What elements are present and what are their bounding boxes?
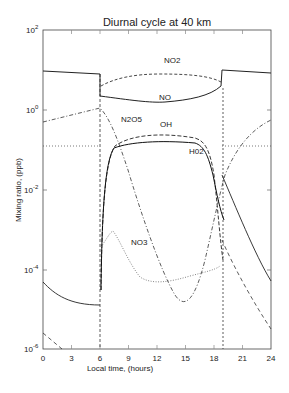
series-no2: [101, 74, 221, 86]
x-axis-label: Local time, (hours): [87, 364, 154, 373]
chart-title: Diurnal cycle at 40 km: [103, 16, 211, 28]
chart-canvas: Diurnal cycle at 40 km Mixing ratio, (pp…: [0, 0, 289, 393]
svg-text:3: 3: [69, 354, 74, 363]
svg-text:10-6: 10-6: [24, 343, 39, 354]
svg-text:9: 9: [126, 354, 131, 363]
svg-text:NO3: NO3: [131, 238, 148, 247]
series-labels: NO2 NO N2O5 OH H02 NO3: [121, 56, 204, 247]
x-tick-labels: 0 3 6 9 12 15 18 21 24: [41, 354, 276, 363]
y-ticks: [43, 110, 271, 270]
series-ho2: [101, 142, 224, 290]
series-no3: [101, 231, 220, 282]
svg-text:H02: H02: [189, 147, 204, 156]
svg-text:6: 6: [98, 354, 103, 363]
y-tick-labels: 102 100 10-2 10-4 10-6: [24, 24, 39, 354]
svg-text:N2O5: N2O5: [121, 115, 142, 124]
y-axis-label: Mixing ratio, (ppb): [14, 158, 23, 222]
svg-text:10-2: 10-2: [24, 184, 39, 195]
plot-frame: [43, 30, 271, 349]
series-oh: [101, 135, 223, 290]
svg-text:OH: OH: [160, 120, 172, 129]
svg-text:15: 15: [181, 354, 190, 363]
series-ho2-night: [43, 175, 271, 305]
svg-text:0: 0: [41, 354, 46, 363]
series-no: [43, 70, 271, 102]
x-ticks: [72, 30, 243, 349]
svg-text:24: 24: [267, 354, 276, 363]
svg-text:102: 102: [26, 24, 39, 35]
svg-text:NO: NO: [159, 93, 171, 102]
svg-text:100: 100: [26, 104, 39, 115]
svg-text:10-4: 10-4: [24, 264, 39, 275]
svg-text:21: 21: [238, 354, 247, 363]
svg-text:NO2: NO2: [164, 56, 181, 65]
svg-text:18: 18: [210, 354, 219, 363]
svg-text:12: 12: [153, 354, 162, 363]
series-n2o5: [43, 108, 271, 302]
